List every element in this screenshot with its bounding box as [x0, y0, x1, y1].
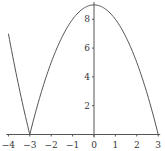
- x-tick-label: −1: [66, 140, 79, 150]
- y-tick-label: 4: [84, 72, 90, 82]
- x-tick-label: 2: [134, 140, 140, 150]
- x-tick-label: −3: [23, 140, 37, 150]
- x-tick-label: 3: [155, 140, 161, 150]
- y-tick-label: 2: [84, 101, 90, 111]
- y-tick-label: 8: [84, 14, 90, 24]
- chart: −4−3−2−101232468: [0, 0, 165, 151]
- x-tick-label: −2: [45, 140, 58, 150]
- data-curve: [8, 5, 158, 135]
- y-tick-label: 6: [84, 43, 90, 53]
- x-tick-label: 1: [113, 140, 119, 150]
- tick-labels: −4−3−2−101232468: [2, 14, 162, 150]
- x-tick-label: 0: [91, 140, 97, 150]
- x-tick-label: −4: [2, 140, 16, 150]
